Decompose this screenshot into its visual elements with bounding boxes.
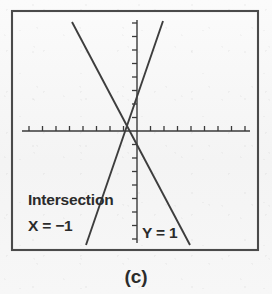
figure-caption: (c): [124, 266, 147, 287]
y-value-label: Y = 1: [142, 224, 178, 241]
x-value-label: X = −1: [28, 217, 73, 234]
figure-container: Intersection X = −1 Y = 1 (c): [0, 0, 272, 294]
data-line-rising-line: [86, 21, 163, 245]
intersection-label: Intersection: [28, 191, 113, 208]
data-line-falling-line: [72, 22, 190, 245]
plot-svg: Intersection X = −1 Y = 1 (c): [0, 0, 272, 294]
data-lines-group: [72, 21, 190, 245]
